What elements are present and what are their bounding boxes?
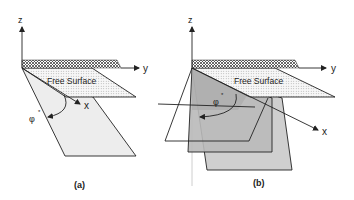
angle-label: φ [29,114,35,124]
panel-a: z y x Free Surface φ * (a) [18,15,148,190]
figure-canvas: z y x Free Surface φ * (a) z y x [0,0,354,200]
angle-superscript: * [38,109,41,115]
free-surface-label: Free Surface [234,76,283,86]
z-axis-label: z [188,15,193,25]
x-axis-label: x [322,126,327,137]
free-surface-label: Free Surface [47,76,96,86]
x-axis-label: x [84,100,89,111]
z-axis-label: z [18,15,23,25]
panel-caption: (a) [74,180,85,190]
y-axis-label: y [331,63,336,74]
ground-hatch [22,60,121,68]
ground-hatch [192,60,299,68]
panel-b: z y x Free Surface φ * (b) [158,15,336,188]
angle-label: φ [213,97,219,107]
panel-caption: (b) [253,178,265,188]
y-axis-label: y [143,63,148,74]
